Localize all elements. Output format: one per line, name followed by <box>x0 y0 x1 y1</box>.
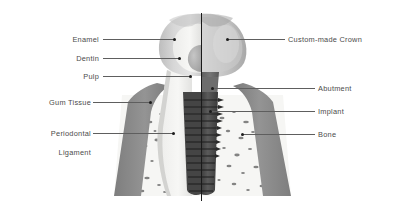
leader-dot-bone <box>241 133 244 136</box>
label-bone: Bone <box>318 130 413 139</box>
label-abutment: Abutment <box>318 84 413 93</box>
leader-dot-custom-made-crown <box>226 38 229 41</box>
leader-line-abutment <box>213 88 315 89</box>
label-implant: Implant <box>318 107 413 116</box>
label-custom-made-crown: Custom-made Crown <box>288 35 413 44</box>
section-divider-line <box>201 13 203 201</box>
label-gum-tissue: Gum Tissue <box>10 98 91 107</box>
leader-dot-abutment <box>211 87 214 90</box>
leader-dot-periodontal-ligament <box>172 132 175 135</box>
label-periodontal-ligament-line2: Ligament <box>59 148 91 157</box>
leader-line-pulp <box>103 76 191 77</box>
leader-line-enamel <box>103 39 175 40</box>
label-dentin: Dentin <box>20 54 99 63</box>
label-pulp: Pulp <box>20 72 99 81</box>
leader-line-custom-made-crown <box>228 39 285 40</box>
leader-line-dentin <box>103 58 180 59</box>
leader-line-periodontal-ligament <box>93 133 174 134</box>
label-periodontal-ligament: Periodontal Ligament <box>10 120 91 166</box>
leader-dot-gum-tissue <box>149 101 152 104</box>
leader-line-implant <box>211 111 315 112</box>
leader-dot-implant <box>209 110 212 113</box>
dental-implant-diagram: Enamel Dentin Pulp Gum Tissue Periodonta… <box>0 0 417 213</box>
leader-dot-pulp <box>189 75 192 78</box>
label-enamel: Enamel <box>20 35 99 44</box>
leader-line-gum-tissue <box>93 102 151 103</box>
leader-dot-dentin <box>178 57 181 60</box>
leader-dot-enamel <box>173 38 176 41</box>
diagram-canvas: Enamel Dentin Pulp Gum Tissue Periodonta… <box>0 0 417 213</box>
leader-line-bone <box>243 134 315 135</box>
label-periodontal-ligament-line1: Periodontal <box>51 129 91 138</box>
